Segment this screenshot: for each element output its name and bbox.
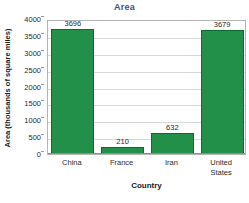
bar-chart: Area Area (thousands of square miles) 40… [0, 0, 249, 203]
x-tick-label-line: China [47, 158, 97, 168]
x-tick-label-line: States [196, 168, 246, 178]
bar-slot: 210 [98, 21, 148, 154]
y-tick-label: 500 [10, 134, 41, 142]
y-tick-label: 2000 [10, 84, 41, 92]
bar[interactable] [151, 133, 194, 154]
y-tick-label: 0 [10, 151, 41, 159]
x-tick-label: UnitedStates [196, 158, 246, 177]
x-tick-label-line: Iran [147, 158, 197, 168]
bar[interactable] [201, 30, 244, 154]
y-tick-label: 3000 [10, 50, 41, 58]
y-tick-label: 1500 [10, 100, 41, 108]
chart-title: Area [0, 1, 249, 13]
bar-value-label: 3679 [197, 20, 247, 29]
y-tick-mark [41, 33, 44, 34]
y-tick-label: 2500 [10, 67, 41, 75]
bar-series: 36962106323679 [48, 21, 245, 154]
bar-slot: 3696 [48, 21, 98, 154]
x-axis-baseline [48, 153, 245, 154]
y-tick-mark [41, 151, 44, 152]
x-tick-label: Iran [147, 158, 197, 168]
plot-area: 36962106323679 [47, 20, 246, 155]
bar[interactable] [51, 29, 94, 154]
x-tick-label: China [47, 158, 97, 168]
y-tick-mark [41, 134, 44, 135]
y-tick-mark [41, 117, 44, 118]
y-tick-label: 4000 [10, 16, 41, 24]
bar-value-label: 3696 [48, 19, 98, 28]
y-tick-mark [41, 16, 44, 17]
y-tick-mark [41, 67, 44, 68]
y-tick-label: 1000 [10, 117, 41, 125]
bar-slot: 632 [148, 21, 198, 154]
x-tick-label-line: France [97, 158, 147, 168]
y-tick-label: 3500 [10, 33, 41, 41]
bar-value-label: 632 [148, 123, 198, 132]
x-tick-label: France [97, 158, 147, 168]
y-tick-mark [41, 84, 44, 85]
bar-value-label: 210 [98, 137, 148, 146]
x-axis-title: Country [47, 181, 246, 190]
y-axis-tick-labels: 40003500300025002000150010005000 [13, 20, 44, 155]
bar-slot: 3679 [197, 21, 247, 154]
x-tick-label-line: United [196, 158, 246, 168]
y-tick-mark [41, 100, 44, 101]
y-tick-mark [41, 50, 44, 51]
